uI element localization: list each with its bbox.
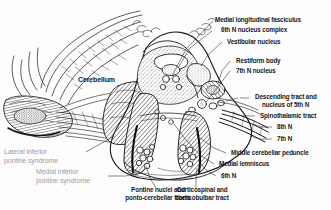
label-corticobulbar-line2: corticobulbar tract <box>160 194 244 201</box>
label-medial-inferior-syndrome-line2: pontine syndrome <box>36 177 90 184</box>
label-eighth-n: 8th N <box>277 123 292 130</box>
label-descending-tract-line1: Descending tract and <box>255 93 317 100</box>
label-spinothalamic-tract: Spinothalamic tract <box>260 112 316 119</box>
label-seventh-n-nucleus: 7th N nucleus <box>236 67 276 74</box>
label-sixth-n: 6th N <box>221 172 236 179</box>
label-descending-tract-line2: nucleus of 5th N <box>262 101 309 108</box>
label-cerebellum: Cerebellum <box>78 76 115 83</box>
label-restiform-body: Restiform body <box>236 57 281 64</box>
label-lateral-inferior-syndrome-line1: Lateral inferior <box>4 148 47 155</box>
label-medial-inferior-syndrome-line1: Medial inferior <box>36 168 78 175</box>
label-middle-cerebellar-peduncle: Middle cerebellar peduncle <box>231 149 309 156</box>
pons-cross-section-figure: Medial longitudinal fasciculus 6th N nuc… <box>0 0 331 210</box>
label-corticospinal-line1: Corticospinal and <box>160 186 244 193</box>
label-seventh-n: 7th N <box>277 135 292 142</box>
label-lateral-inferior-syndrome-line2: pontine syndrome <box>4 157 58 164</box>
label-vestibular-nucleus: Vestibular nucleus <box>227 38 280 45</box>
label-sixth-n-nucleus-complex: 6th N nucleus complex <box>221 26 287 33</box>
label-medial-longitudinal-fasciculus: Medial longitudinal fasciculus <box>215 16 301 23</box>
label-medial-lemniscus: Medial lemniscus <box>219 160 269 167</box>
